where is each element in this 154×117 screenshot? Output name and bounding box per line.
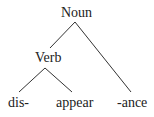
node-noun: Noun bbox=[61, 6, 92, 20]
edge-verb-dis bbox=[19, 68, 45, 92]
node-appear: appear bbox=[56, 96, 93, 110]
node-verb: Verb bbox=[35, 51, 61, 65]
node-ance: -ance bbox=[117, 96, 147, 110]
node-dis: dis- bbox=[8, 96, 29, 110]
edge-verb-appear bbox=[45, 68, 72, 92]
edge-noun-ance bbox=[75, 22, 131, 92]
edge-noun-verb bbox=[50, 22, 75, 48]
